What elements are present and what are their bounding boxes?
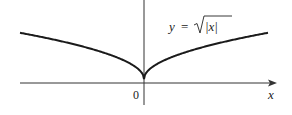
graph-canvas: 0 x y = |x| bbox=[0, 0, 292, 115]
equation-label: y = |x| bbox=[167, 16, 232, 34]
equation-radicand: |x| bbox=[205, 19, 218, 34]
equation-lhs: y bbox=[167, 19, 175, 34]
equation-equals: = bbox=[181, 19, 188, 34]
origin-label: 0 bbox=[133, 88, 139, 102]
x-axis-label: x bbox=[267, 87, 274, 102]
